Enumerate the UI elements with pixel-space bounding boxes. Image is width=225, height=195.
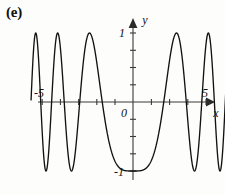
x-tick-label-minus5: -5: [34, 86, 44, 100]
x-axis-label: x: [212, 106, 219, 120]
y-tick-label-one: 1: [119, 26, 125, 40]
figure-container: (e): [0, 0, 225, 195]
axis-label-layer: x y -5 5 1 -1 0: [0, 0, 225, 195]
origin-label: 0: [121, 106, 127, 120]
y-tick-label-minus-one: -1: [114, 165, 124, 179]
x-tick-label-plus5: 5: [202, 86, 208, 100]
y-axis-label: y: [141, 13, 148, 27]
